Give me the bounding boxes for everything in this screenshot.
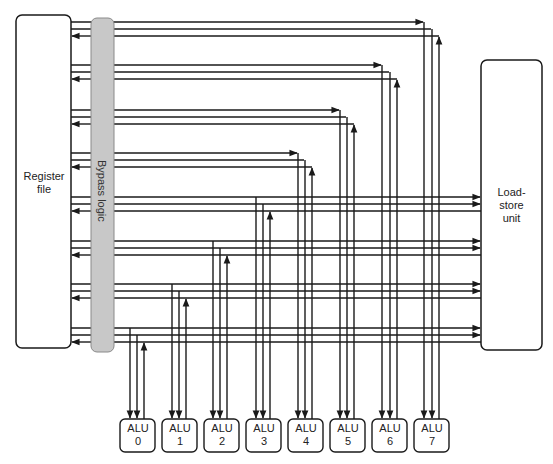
alu-index: 7	[414, 435, 450, 448]
alu-index: 5	[330, 435, 366, 448]
alu-index: 0	[120, 435, 156, 448]
lsu-label-line3: unit	[481, 212, 542, 225]
alu-title: ALU	[372, 422, 408, 435]
alu-title: ALU	[246, 422, 282, 435]
lsu-label-line2: store	[481, 199, 542, 212]
alu-title: ALU	[162, 422, 198, 435]
alu-title: ALU	[204, 422, 240, 435]
alu-6-label: ALU6	[372, 422, 408, 448]
alu-1-label: ALU1	[162, 422, 198, 448]
alu-3-label: ALU3	[246, 422, 282, 448]
lsu-label-line1: Load-	[481, 186, 542, 199]
alu-7-label: ALU7	[414, 422, 450, 448]
bypass-logic-label: Bypass logic	[90, 160, 114, 204]
alu-title: ALU	[414, 422, 450, 435]
load-store-unit-label: Load- store unit	[481, 186, 542, 225]
alu-2-label: ALU2	[204, 422, 240, 448]
register-file-label: Register file	[16, 170, 72, 196]
alu-0-label: ALU0	[120, 422, 156, 448]
alu-title: ALU	[288, 422, 324, 435]
alu-index: 4	[288, 435, 324, 448]
alu-index: 6	[372, 435, 408, 448]
bypass-network-diagram	[0, 0, 553, 464]
alu-title: ALU	[330, 422, 366, 435]
alu-title: ALU	[120, 422, 156, 435]
alu-index: 3	[246, 435, 282, 448]
alu-index: 1	[162, 435, 198, 448]
alu-4-label: ALU4	[288, 422, 324, 448]
register-file-label-line1: Register	[16, 170, 72, 183]
register-file-label-line2: file	[16, 183, 72, 196]
alu-index: 2	[204, 435, 240, 448]
wires	[71, 22, 481, 419]
alu-5-label: ALU5	[330, 422, 366, 448]
